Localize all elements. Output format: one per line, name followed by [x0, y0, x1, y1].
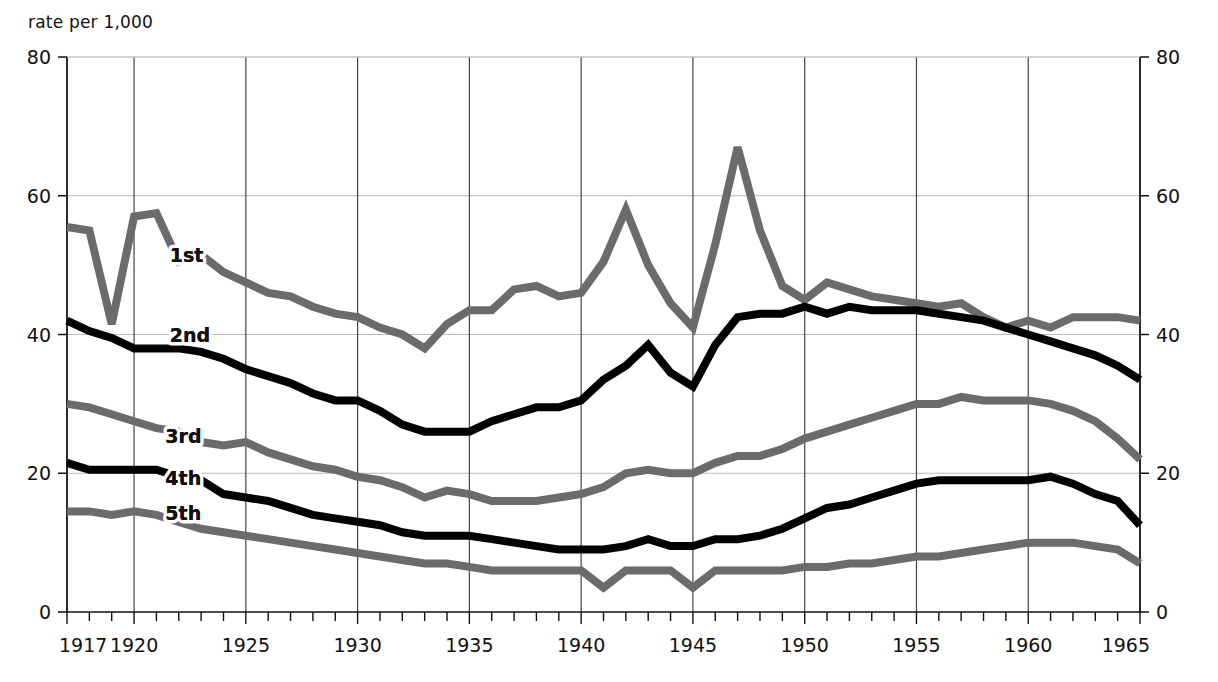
x-tick-label: 1935	[445, 634, 493, 656]
x-tick-label: 1960	[1004, 634, 1052, 656]
x-tick-label: 1965	[1102, 634, 1150, 656]
x-tick-label: 1945	[669, 634, 717, 656]
x-tick-label: 1950	[781, 634, 829, 656]
series-line-2nd	[67, 307, 1140, 432]
series-annotation-4th: 4th	[165, 467, 201, 489]
y-tick-label-right: 60	[1156, 185, 1180, 207]
x-tick-label: 1917	[59, 634, 107, 656]
y-tick-label-right: 20	[1156, 462, 1180, 484]
y-tick-label-left: 80	[27, 46, 51, 68]
y-tick-label-right: 0	[1156, 601, 1168, 623]
y-tick-label-left: 0	[39, 601, 51, 623]
x-tick-label: 1930	[333, 634, 381, 656]
x-tick-label: 1940	[557, 634, 605, 656]
chart-canvas: rate per 1,000 0020204040606080801917192…	[0, 0, 1218, 682]
series-line-3rd	[67, 397, 1140, 501]
y-tick-label-right: 80	[1156, 46, 1180, 68]
x-tick-label: 1925	[222, 634, 270, 656]
y-tick-label-left: 40	[27, 324, 51, 346]
series-annotation-2nd: 2nd	[170, 324, 210, 346]
x-tick-label: 1955	[892, 634, 940, 656]
y-tick-label-right: 40	[1156, 324, 1180, 346]
series-annotation-3rd: 3rd	[165, 425, 201, 447]
series-annotation-1st: 1st	[170, 244, 204, 266]
x-tick-label: 1920	[110, 634, 158, 656]
series-annotation-5th: 5th	[165, 502, 201, 524]
y-tick-label-left: 20	[27, 462, 51, 484]
line-chart: 0020204040606080801917192019251930193519…	[0, 0, 1218, 682]
y-tick-label-left: 60	[27, 185, 51, 207]
